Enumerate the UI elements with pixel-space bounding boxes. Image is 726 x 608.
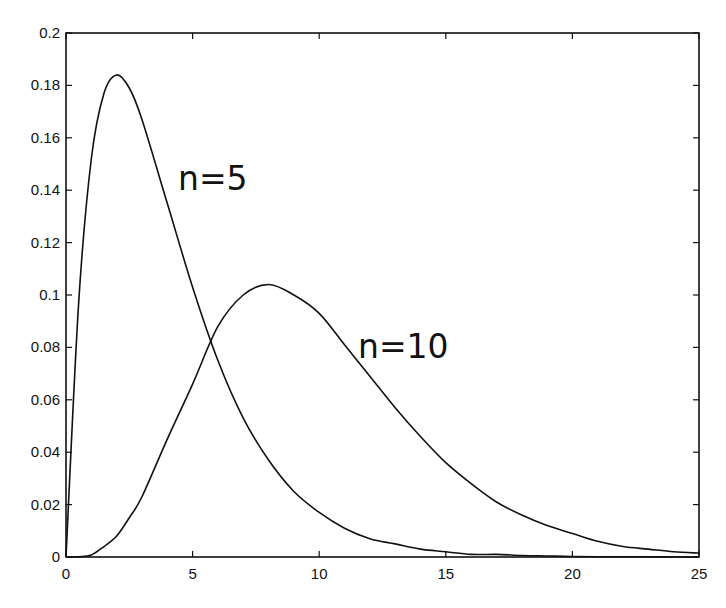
y-tick-label: 0.18 [31, 76, 60, 93]
y-tick-label: 0 [52, 548, 60, 565]
y-tick-label: 0.2 [39, 24, 60, 41]
plot-frame [66, 33, 699, 557]
x-tick-label: 5 [188, 565, 196, 582]
y-tick-label: 0.06 [31, 391, 60, 408]
y-tick-label: 0.08 [31, 338, 60, 355]
x-tick-label: 10 [311, 565, 328, 582]
annotation-n5: n=5 [178, 159, 248, 198]
series-line-n5 [66, 75, 699, 557]
y-tick-label: 0.12 [31, 234, 60, 251]
y-tick-label: 0.14 [31, 181, 60, 198]
chart: 00.020.040.060.080.10.120.140.160.180.2 … [0, 0, 726, 608]
x-tick-label: 25 [691, 565, 708, 582]
y-axis: 00.020.040.060.080.10.120.140.160.180.2 [31, 24, 699, 565]
y-tick-label: 0.04 [31, 443, 60, 460]
y-tick-label: 0.02 [31, 496, 60, 513]
x-tick-label: 20 [564, 565, 581, 582]
y-tick-label: 0.16 [31, 129, 60, 146]
series-lines [66, 75, 699, 557]
series-line-n10 [66, 285, 699, 557]
annotation-n10: n=10 [358, 327, 449, 366]
y-tick-label: 0.1 [39, 286, 60, 303]
x-tick-label: 15 [437, 565, 454, 582]
x-axis: 0510152025 [62, 33, 708, 582]
x-tick-label: 0 [62, 565, 70, 582]
